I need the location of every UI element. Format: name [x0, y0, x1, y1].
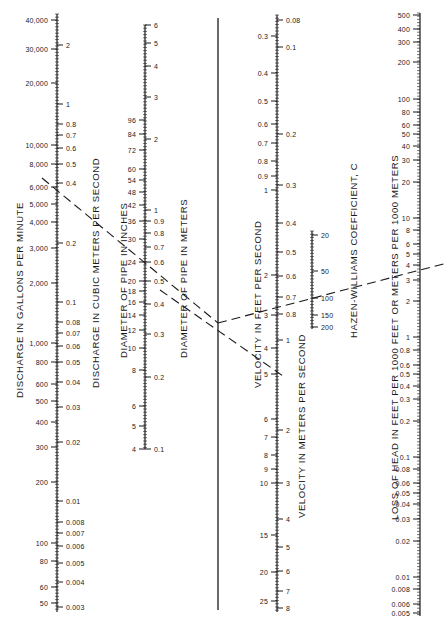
- tick-label: 0.02: [66, 439, 80, 446]
- tick-label: 3: [286, 480, 290, 487]
- tick-label: 0.1: [154, 446, 164, 453]
- tick-label: 0.06: [66, 343, 80, 350]
- tick-label: 30,000: [0, 46, 48, 53]
- tick-label: 25: [220, 598, 268, 605]
- tick-label: 50: [362, 131, 410, 138]
- tick-label: 0.4: [220, 70, 268, 77]
- tick-label: 0.6: [66, 145, 76, 152]
- tick-label: 0.08: [362, 466, 410, 473]
- tick-label: 0.9: [220, 173, 268, 180]
- tick-label: 0.02: [362, 538, 410, 545]
- tick-label: 0.1: [286, 44, 296, 51]
- tick-label: 15: [220, 532, 268, 539]
- tick-label: 0.6: [220, 121, 268, 128]
- tick-label: 0.07: [66, 330, 80, 337]
- tick-label: 0.04: [362, 501, 410, 508]
- tick-label: 0.7: [154, 244, 164, 251]
- tick-label: 0.4: [286, 220, 296, 227]
- tick-label: 0.7: [286, 294, 296, 301]
- tick-label: 8: [286, 605, 290, 612]
- tick-label: 0.5: [286, 249, 296, 256]
- tick-label: 0.1: [362, 454, 410, 461]
- tick-label: 0.006: [66, 543, 85, 550]
- tick-label: 0.6: [362, 362, 410, 369]
- tick-label: 4: [154, 63, 158, 70]
- tick-label: 0.08: [66, 319, 80, 326]
- tick-label: 0.7: [66, 132, 76, 139]
- tick-label: 2: [362, 298, 410, 305]
- tick-label: 150: [321, 312, 333, 319]
- tick-label: 200: [362, 59, 410, 66]
- tick-label: 0.3: [286, 182, 296, 189]
- tick-label: 80: [362, 109, 410, 116]
- tick-label: 50: [0, 600, 48, 607]
- tick-label: 0.2: [154, 374, 164, 381]
- tick-label: 0.05: [362, 490, 410, 497]
- tick-label: 5: [286, 544, 290, 551]
- tick-label: 60: [0, 584, 48, 591]
- tick-label: 9: [220, 466, 268, 473]
- tick-label: 0.03: [362, 516, 410, 523]
- tick-label: 1: [154, 207, 158, 214]
- tick-label: 0.4: [66, 180, 76, 187]
- tick-label: 0.6: [154, 259, 164, 266]
- tick-label: 0.5: [66, 161, 76, 168]
- tick-label: 40: [362, 143, 410, 150]
- tick-label: 96: [88, 117, 136, 124]
- tick-label: 100: [362, 96, 410, 103]
- tick-label: 0.1: [66, 299, 76, 306]
- tick-label: 6: [88, 403, 136, 410]
- tick-label: 100: [321, 295, 333, 302]
- tick-label: 400: [362, 26, 410, 33]
- tick-label: 1: [362, 334, 410, 341]
- tick-label: 0.008: [362, 586, 410, 593]
- tick-label: 8,000: [0, 161, 48, 168]
- tick-label: 20: [321, 232, 329, 239]
- tick-label: 84: [88, 131, 136, 138]
- tick-label: 80: [0, 558, 48, 565]
- tick-label: 0.5: [362, 371, 410, 378]
- tick-label: 20: [220, 569, 268, 576]
- tick-label: 400: [0, 419, 48, 426]
- tick-label: 200: [321, 324, 333, 331]
- tick-label: 0.8: [362, 347, 410, 354]
- tick-label: 3: [154, 94, 158, 101]
- tick-label: 5: [362, 251, 410, 258]
- tick-label: 8: [362, 227, 410, 234]
- tick-label: 0.05: [66, 359, 80, 366]
- tick-label: 300: [0, 444, 48, 451]
- tick-label: 0.8: [154, 230, 164, 237]
- hazen-williams-title: HAZEN-WILLIAMS COEFFICIENT, C: [348, 163, 359, 338]
- tick-label: 4: [362, 262, 410, 269]
- tick-label: 500: [0, 398, 48, 405]
- velocity-fps-title: VELOCITY IN FEET PER SECOND: [252, 221, 263, 388]
- tick-label: 0.4: [362, 383, 410, 390]
- tick-label: 0.8: [66, 121, 76, 128]
- tick-label: 0.5: [220, 98, 268, 105]
- tick-label: 0.008: [66, 519, 85, 526]
- tick-label: 20: [362, 179, 410, 186]
- tick-label: 1: [220, 187, 268, 194]
- tick-label: 7: [286, 588, 290, 595]
- tick-label: 0.04: [66, 379, 80, 386]
- tick-label: 7: [220, 434, 268, 441]
- tick-label: 6: [286, 568, 290, 575]
- tick-label: 72: [88, 147, 136, 154]
- tick-label: 0.003: [66, 604, 85, 611]
- discharge-gpm-title: DISCHARGE IN GALLONS PER MINUTE: [14, 202, 25, 398]
- tick-label: 0.005: [362, 610, 410, 617]
- tick-label: 6: [362, 241, 410, 248]
- tick-label: 100: [0, 540, 48, 547]
- tick-label: 6: [220, 416, 268, 423]
- tick-label: 0.01: [362, 574, 410, 581]
- tick-label: 0.3: [362, 396, 410, 403]
- tick-label: 0.8: [286, 311, 296, 318]
- tick-label: 0.08: [286, 17, 300, 24]
- velocity-mps-title: VELOCITY IN METERS PER SECOND: [296, 334, 307, 518]
- tick-label: 4: [286, 516, 290, 523]
- tick-label: 0.01: [66, 498, 80, 505]
- diameter-in-title: DIAMETER OF PIPE IN INCHES: [118, 203, 129, 358]
- discharge-cms-title: DISCHARGE IN CUBIC METERS PER SECOND: [90, 158, 101, 388]
- tick-label: 0.004: [66, 579, 85, 586]
- tick-label: 0.5: [154, 278, 164, 285]
